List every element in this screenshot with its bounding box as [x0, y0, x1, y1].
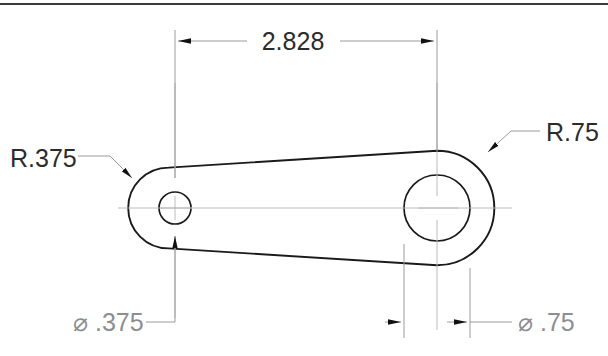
technical-drawing-canvas: 2.828 R.375 R.75 ⌀ .375 ⌀ .75 [0, 0, 608, 356]
dimension-small-hole-diameter: ⌀ .375 [73, 236, 175, 336]
dimension-label-small-hole-diameter: ⌀ .375 [73, 308, 144, 336]
dimension-large-hole-diameter: ⌀ .75 [385, 244, 575, 338]
dimension-label-small-fillet-radius: R.375 [10, 144, 77, 172]
dimension-label-large-hole-diameter: ⌀ .75 [518, 308, 575, 336]
dimension-large-fillet-radius: R.75 [488, 118, 599, 152]
leader-line-r375 [78, 156, 132, 178]
dimension-label-large-fillet-radius: R.75 [546, 118, 599, 146]
dimension-small-fillet-radius: R.375 [10, 144, 132, 178]
leader-line-r75 [488, 131, 540, 152]
dimension-center-distance: 2.828 [175, 27, 437, 178]
dimension-label-center-distance: 2.828 [262, 27, 325, 55]
drawing-svg: 2.828 R.375 R.75 ⌀ .375 ⌀ .75 [0, 0, 608, 356]
